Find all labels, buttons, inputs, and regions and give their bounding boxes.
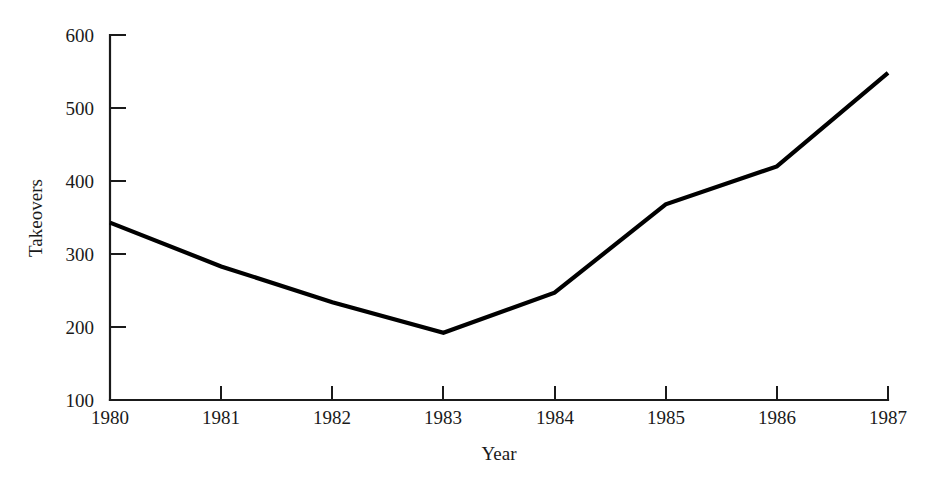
x-tick-label-1983: 1983 — [424, 407, 462, 428]
x-tick-label-1985: 1985 — [647, 407, 685, 428]
y-tick-label-200: 200 — [66, 317, 95, 338]
y-tick-label-400: 400 — [66, 171, 95, 192]
y-tick-label-300: 300 — [66, 244, 95, 265]
x-axis-ticks — [221, 386, 888, 400]
x-axis-tick-labels: 1980 1981 1982 1983 1984 1985 1986 1987 — [91, 407, 907, 428]
x-tick-label-1987: 1987 — [869, 407, 907, 428]
x-tick-label-1982: 1982 — [313, 407, 351, 428]
chart-figure: 600 500 400 300 200 100 1980 1981 1982 1… — [0, 0, 934, 489]
x-tick-label-1986: 1986 — [758, 407, 796, 428]
x-tick-label-1980: 1980 — [91, 407, 129, 428]
x-axis-title: Year — [481, 443, 517, 464]
x-tick-label-1984: 1984 — [536, 407, 575, 428]
line-chart-canvas: 600 500 400 300 200 100 1980 1981 1982 1… — [0, 0, 934, 489]
axes-spines — [110, 35, 888, 400]
x-tick-label-1981: 1981 — [202, 407, 240, 428]
y-tick-label-600: 600 — [66, 25, 95, 46]
y-tick-label-500: 500 — [66, 98, 95, 119]
y-tick-label-100: 100 — [66, 390, 95, 411]
y-axis-title: Takeovers — [25, 179, 46, 257]
y-axis-ticks — [110, 35, 126, 327]
data-series-takeovers — [110, 73, 888, 333]
y-axis-tick-labels: 600 500 400 300 200 100 — [66, 25, 95, 411]
